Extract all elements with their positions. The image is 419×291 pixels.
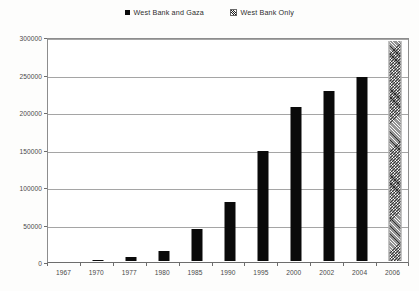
- bar-slot: [312, 39, 345, 261]
- bar-slot: [378, 39, 411, 261]
- x-axis-tick-mark: [408, 263, 409, 266]
- x-axis-tick-mark: [113, 263, 114, 266]
- x-axis-tick-label: 1977: [122, 269, 137, 276]
- x-axis-tick-mark: [376, 263, 377, 266]
- y-axis-tick-label: 200000: [0, 110, 42, 117]
- y-axis-tick-label: 50000: [0, 222, 42, 229]
- bar-series-group: [49, 39, 407, 261]
- bar-1980: [159, 251, 170, 261]
- x-axis-tick-label: 1985: [188, 269, 203, 276]
- x-axis-labels: 1967197019771980198519901995200020022004…: [47, 269, 409, 283]
- x-axis-tick-label: 2002: [319, 269, 334, 276]
- y-axis-tick-label: 0: [0, 260, 42, 267]
- x-axis-tick-mark: [179, 263, 180, 266]
- bar-slot: [181, 39, 214, 261]
- bar-slot: [49, 39, 82, 261]
- bar-slot: [279, 39, 312, 261]
- bar-slot: [115, 39, 148, 261]
- bar-2000: [290, 107, 301, 261]
- bar-slot: [345, 39, 378, 261]
- x-axis-tick-label: 1970: [89, 269, 104, 276]
- legend-swatch-hatched-icon: [230, 9, 237, 16]
- x-axis-tick-mark: [244, 263, 245, 266]
- x-axis-tick-mark: [212, 263, 213, 266]
- x-axis-tick-label: 2000: [286, 269, 301, 276]
- bar-2006: [388, 41, 401, 262]
- x-axis-tick-label: 2004: [352, 269, 367, 276]
- plot-area: [47, 38, 409, 263]
- x-axis-tick-mark: [146, 263, 147, 266]
- x-axis-tick-mark: [277, 263, 278, 266]
- y-axis-tick-label: 300000: [0, 35, 42, 42]
- legend-item-west-bank-and-gaza: West Bank and Gaza: [125, 8, 204, 17]
- x-axis-tick-label: 1990: [220, 269, 235, 276]
- y-axis-tick-label: 100000: [0, 185, 42, 192]
- bar-slot: [246, 39, 279, 261]
- x-axis-tick-mark: [47, 263, 48, 266]
- bar-1970: [93, 260, 104, 261]
- bar-2002: [323, 91, 334, 261]
- x-axis-tick-mark: [80, 263, 81, 266]
- bar-slot: [82, 39, 115, 261]
- legend-swatch-solid-icon: [125, 10, 130, 15]
- bar-1985: [192, 229, 203, 261]
- bar-slot: [214, 39, 247, 261]
- legend-label-west-bank-only: West Bank Only: [241, 8, 295, 17]
- x-axis-tick-label: 1995: [253, 269, 268, 276]
- x-axis-tick-label: 1980: [155, 269, 170, 276]
- y-axis-tick-label: 250000: [0, 72, 42, 79]
- bar-1990: [224, 202, 235, 261]
- bar-slot: [148, 39, 181, 261]
- x-axis-tick-label: 2006: [385, 269, 400, 276]
- legend-item-west-bank-only: West Bank Only: [230, 8, 294, 17]
- y-axis-tick-label: 150000: [0, 147, 42, 154]
- x-axis-tick-label: 1967: [56, 269, 71, 276]
- bar-1995: [257, 151, 268, 261]
- bar-2004: [356, 77, 367, 261]
- x-axis-ticks: [47, 263, 409, 267]
- bar-1977: [126, 257, 137, 261]
- x-axis-tick-mark: [310, 263, 311, 266]
- bar-chart: West Bank and Gaza West Bank Only 050000…: [0, 0, 419, 291]
- x-axis-tick-mark: [343, 263, 344, 266]
- chart-legend: West Bank and Gaza West Bank Only: [0, 8, 419, 17]
- legend-label-west-bank-and-gaza: West Bank and Gaza: [134, 8, 205, 17]
